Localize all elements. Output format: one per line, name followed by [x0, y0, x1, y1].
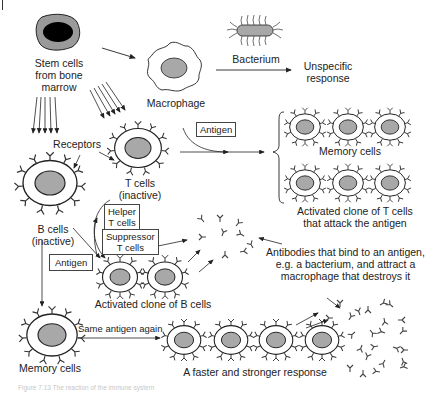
label-line: Stem cells [24, 57, 94, 69]
label-receptors: Receptors [52, 138, 102, 150]
antibodies-cluster-mid [197, 215, 255, 258]
label-line: (inactive) [115, 189, 165, 201]
activated-b-cell-1 [96, 255, 144, 299]
box-suppressor-t-cells: Suppressor T cells [102, 229, 159, 255]
grouping-brace [273, 112, 284, 203]
box-line: Helper [108, 206, 136, 217]
bacterium [227, 15, 283, 46]
label-b-cells-inactive: B cells (inactive) [28, 223, 78, 247]
label-line: that attack the antigen [285, 217, 425, 229]
label-activated-t-clone: Activated clone of T cells that attack t… [285, 205, 425, 229]
label-line: response [298, 72, 358, 84]
label-macrophage: Macrophage [146, 97, 206, 109]
stem-cell [36, 14, 80, 50]
label-line: (inactive) [28, 235, 78, 247]
label-line: T cells [115, 177, 165, 189]
label-line: marrow [24, 81, 94, 93]
label-line: Activated clone of T cells [285, 205, 425, 217]
memory-cell-bottom [19, 306, 85, 364]
box-line: Suppressor [106, 231, 155, 242]
label-stem-cells: Stem cells from bone marrow [24, 57, 94, 93]
label-line: from bone [24, 69, 94, 81]
label-memory-cells-top: Memory cells [310, 145, 390, 157]
macrophage-cell [147, 42, 201, 91]
arrows-stem-to-b-cells [33, 97, 57, 133]
activated-b-cell-2 [141, 255, 189, 299]
box-antigen-top: Antigen [196, 122, 236, 137]
box-antigen-left: Antigen [49, 254, 93, 271]
label-t-cells-inactive: T cells (inactive) [115, 177, 165, 201]
label-memory-cells-bottom: Memory cells [15, 362, 85, 374]
box-helper-t-cells: Helper T cells [104, 204, 140, 230]
label-antibodies-note: Antibodies that bind to an antigen, e.g.… [258, 246, 433, 282]
label-line: e.g. a bacterium, and attract a [258, 258, 433, 270]
label-line: macrophage that destroys it [258, 270, 433, 282]
label-same-antigen-again: Same antigen again [78, 323, 160, 335]
label-line: Antibodies that bind to an antigen, [258, 246, 433, 258]
box-line: T cells [108, 217, 136, 228]
label-line: Unspecific [298, 60, 358, 72]
arrow-stem-to-macrophage [102, 48, 135, 58]
b-cell-inactive [14, 152, 85, 214]
label-activated-b-clone: Activated clone of B cells [88, 298, 218, 310]
figure-caption: Figure 7.13 The reaction of the immune s… [18, 384, 154, 391]
box-line: T cells [106, 242, 155, 253]
arrows-stem-to-t-cells [90, 82, 125, 118]
t-cell-inactive [107, 121, 169, 175]
label-unspecific-response: Unspecific response [298, 60, 358, 84]
label-faster-response: A faster and stronger response [175, 366, 335, 378]
label-bacterium: Bacterium [228, 53, 284, 65]
arrow-receptors-to-t-cell [99, 152, 114, 160]
label-line: B cells [28, 223, 78, 235]
